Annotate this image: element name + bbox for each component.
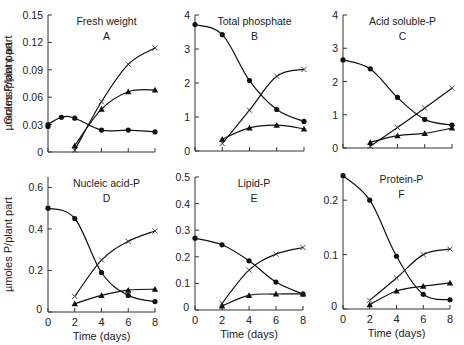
x-tick-label: 8 — [152, 316, 158, 328]
y-tick-label: 0.5 — [175, 171, 190, 183]
panel-title: Fresh weight — [76, 15, 136, 27]
circle-marker — [192, 22, 197, 27]
y-tick-label: 0 — [37, 146, 43, 158]
circle-marker — [45, 122, 50, 127]
y-tick-label: 0 — [332, 142, 338, 154]
circle-marker — [220, 32, 225, 37]
y-tick-label: 0.03 — [23, 119, 44, 131]
panel-A: 00.030.060.090.120.15Fresh weightAGrams/… — [2, 9, 158, 158]
x-tick-label: 0 — [192, 314, 198, 326]
circle-marker — [219, 242, 224, 247]
y-tick-label: 2 — [184, 77, 190, 89]
series-line-circle — [195, 238, 303, 294]
x-tick-label: 0 — [340, 313, 346, 325]
y-tick-label: 0 — [184, 145, 190, 157]
circle-marker — [45, 206, 50, 211]
cross-marker — [126, 239, 131, 244]
cross-marker — [394, 275, 399, 280]
series-line-circle — [343, 176, 450, 300]
panel-title: Acid soluble-P — [369, 15, 436, 27]
y-tick-label: 0.4 — [28, 223, 43, 235]
panel-title: Total phosphate — [217, 15, 291, 27]
y-tick-label: 0.6 — [28, 181, 43, 193]
circle-marker — [152, 129, 157, 134]
circle-marker — [368, 66, 373, 71]
x-axis-label: Time (days) — [73, 330, 131, 342]
circle-marker — [59, 115, 64, 120]
panel-letter: E — [250, 192, 257, 204]
circle-marker — [126, 293, 131, 298]
circle-marker — [126, 127, 131, 132]
panel-F: 0246800.10.2Protein-PFTime (days) — [323, 173, 453, 339]
x-tick-label: 6 — [125, 316, 131, 328]
circle-marker — [99, 270, 104, 275]
circle-marker — [340, 173, 345, 178]
y-tick-label: 0.2 — [323, 194, 338, 206]
x-tick-label: 2 — [72, 316, 78, 328]
cross-marker — [421, 252, 426, 257]
cross-marker — [274, 74, 279, 79]
y-tick-label: 0.1 — [175, 277, 190, 289]
x-axis-label: Time (days) — [368, 327, 426, 339]
panel-title: Protein-P — [380, 173, 424, 185]
cross-marker — [422, 106, 427, 111]
panel-D: 0246800.20.40.6Nucleic acid-PDTime (days… — [2, 177, 158, 342]
circle-marker — [72, 216, 77, 221]
series-line-circle — [343, 60, 452, 125]
series-line-cross — [370, 88, 452, 146]
series-line-circle — [195, 25, 304, 122]
series-line-triangle — [222, 125, 304, 139]
y-tick-label: 0.15 — [23, 9, 44, 21]
x-tick-label: 8 — [447, 313, 453, 325]
series-line-circle — [48, 208, 155, 301]
panel-title: Lipid-P — [238, 177, 271, 189]
panel-letter: A — [103, 30, 110, 42]
circle-marker — [367, 198, 372, 203]
cross-marker — [220, 141, 225, 146]
circle-marker — [395, 95, 400, 100]
circle-marker — [422, 117, 427, 122]
y-tick-label: 3 — [332, 42, 338, 54]
y-tick-label: 0.3 — [175, 224, 190, 236]
series-line-cross — [75, 48, 155, 150]
cross-marker — [449, 86, 454, 91]
x-tick-label: 8 — [300, 314, 306, 326]
x-tick-label: 4 — [98, 316, 104, 328]
series-line-triangle — [75, 289, 155, 303]
x-tick-label: 4 — [393, 313, 399, 325]
series-line-triangle — [370, 128, 452, 142]
circle-marker — [273, 279, 278, 284]
circle-marker — [152, 299, 157, 304]
y-tick-label: 0.09 — [23, 64, 44, 76]
triangle-marker — [219, 136, 225, 142]
series-line-triangle — [370, 283, 450, 305]
circle-marker — [72, 116, 77, 121]
panel-letter: D — [103, 192, 111, 204]
x-tick-label: 0 — [45, 316, 51, 328]
cross-marker — [99, 257, 104, 262]
circle-marker — [274, 107, 279, 112]
series-line-cross — [222, 248, 303, 304]
cross-marker — [152, 228, 157, 233]
cross-marker — [395, 125, 400, 130]
panel-letter: C — [399, 30, 407, 42]
cross-marker — [273, 252, 278, 257]
panel-E: 0246800.10.20.30.40.5Lipid-PETime (days) — [175, 171, 306, 340]
circle-marker — [247, 78, 252, 83]
circle-marker — [99, 127, 104, 132]
x-tick-label: 6 — [420, 313, 426, 325]
y-tick-label: 0.4 — [175, 198, 190, 210]
series-line-cross — [222, 69, 304, 143]
y-tick-label: 0 — [331, 300, 337, 312]
circle-marker — [394, 254, 399, 259]
circle-marker — [301, 119, 306, 124]
y-tick-label: 0.06 — [23, 91, 44, 103]
cross-marker — [247, 108, 252, 113]
cross-marker — [72, 294, 77, 299]
x-axis-label: Time (days) — [220, 328, 278, 340]
y-tick-label: 0.2 — [28, 264, 43, 276]
y-tick-label: 1 — [184, 111, 190, 123]
circle-marker — [192, 236, 197, 241]
y-tick-label: 0.1 — [323, 249, 338, 261]
y-tick-label: 0 — [36, 303, 42, 315]
